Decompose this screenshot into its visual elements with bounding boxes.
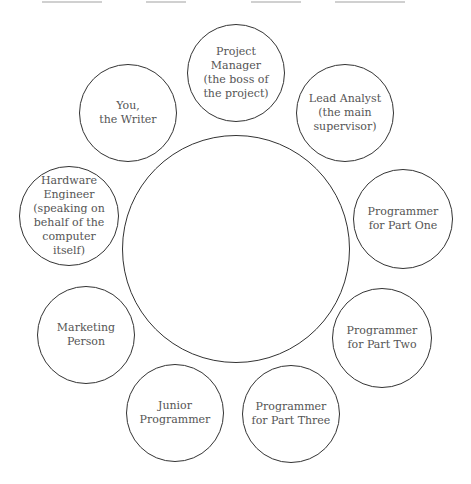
node-programmer-part-two: Programmer for Part Two xyxy=(332,288,432,388)
node-label: Project Manager (the boss of the project… xyxy=(199,45,272,101)
node-label: Programmer for Part One xyxy=(364,205,443,233)
node-project-manager: Project Manager (the boss of the project… xyxy=(187,24,285,122)
node-junior-programmer: Junior Programmer xyxy=(126,364,224,462)
node-programmer-part-three: Programmer for Part Three xyxy=(242,365,340,463)
node-label: Marketing Person xyxy=(53,321,119,349)
node-hardware-engineer: Hardware Engineer (speaking on behalf of… xyxy=(19,166,119,266)
node-label: You, the Writer xyxy=(95,99,160,127)
node-label: Hardware Engineer (speaking on behalf of… xyxy=(29,174,109,258)
node-label: Programmer for Part Two xyxy=(343,324,422,352)
node-lead-analyst: Lead Analyst (the main supervisor) xyxy=(296,64,394,162)
node-label: Lead Analyst (the main supervisor) xyxy=(305,92,385,134)
team-circle-diagram: Project Manager (the boss of the project… xyxy=(0,0,471,484)
node-label: Junior Programmer xyxy=(136,399,215,427)
node-you-the-writer: You, the Writer xyxy=(79,64,177,162)
node-marketing-person: Marketing Person xyxy=(37,286,135,384)
center-circle xyxy=(122,135,350,363)
node-programmer-part-one: Programmer for Part One xyxy=(353,169,453,269)
node-label: Programmer for Part Three xyxy=(248,400,335,428)
